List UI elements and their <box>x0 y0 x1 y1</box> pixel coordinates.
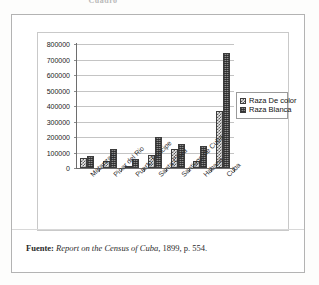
y-axis-tick-label: 400000 <box>47 103 70 110</box>
bar <box>87 156 94 168</box>
bar-group <box>103 44 117 168</box>
y-axis-tick-label: 800000 <box>47 41 70 48</box>
legend-item-raza-blanca: Raza Blanca <box>240 106 285 114</box>
caption-divider <box>12 229 304 230</box>
legend-label: Raza De color <box>249 97 297 105</box>
source-caption: Fuente: Report on the Census of Cuba, 18… <box>26 243 292 254</box>
bar <box>223 53 230 168</box>
y-axis-tick-label: 200000 <box>47 134 70 141</box>
caption-rest: , 1899, p. 554. <box>158 243 207 253</box>
legend-label: Raza Blanca <box>249 106 292 114</box>
y-axis-tick-label: 600000 <box>47 72 70 79</box>
y-axis-tick-label: 700000 <box>47 56 70 63</box>
legend-item-raza-de-color: Raza De color <box>240 97 285 105</box>
dotted-swatch-icon <box>240 107 246 113</box>
chart-container: 0100000200000300000400000500000600000700… <box>37 32 289 231</box>
figure-page: Cuadro 010000020000030000040000050000060… <box>0 0 319 285</box>
plot-area: 0100000200000300000400000500000600000700… <box>38 33 288 230</box>
bar <box>80 158 87 168</box>
x-axis-labels: MatanzasPinar del RioPuerto PrincipeSant… <box>38 173 290 231</box>
caption-label: Fuente: <box>26 243 54 253</box>
y-axis: 0100000200000300000400000500000600000700… <box>38 33 74 179</box>
y-axis-tick-label: 0 <box>66 165 70 172</box>
chart-legend: Raza De color Raza Blanca <box>236 92 288 119</box>
caption-source-title: Report on the Census of Cuba <box>56 243 158 253</box>
figure-frame: 0100000200000300000400000500000600000700… <box>11 14 305 273</box>
y-axis-tick-label: 300000 <box>47 118 70 125</box>
bar-group <box>216 44 230 168</box>
bar-group <box>80 44 94 168</box>
y-axis-tick-label: 500000 <box>47 87 70 94</box>
checkered-swatch-icon <box>240 98 246 104</box>
clipped-heading: Cuadro <box>63 0 143 5</box>
y-axis-tick-label: 100000 <box>47 149 70 156</box>
